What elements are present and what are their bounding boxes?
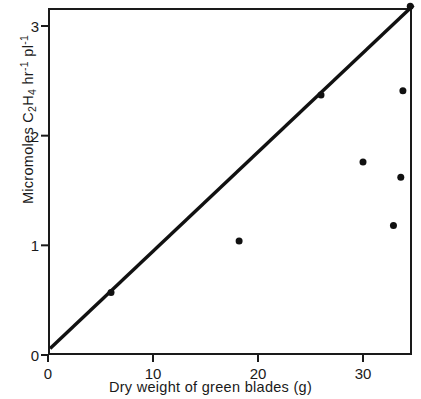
data-point <box>236 237 243 244</box>
data-point <box>399 87 406 94</box>
y-axis-title-prefix: Micromoles C <box>20 112 36 204</box>
data-point <box>390 222 397 229</box>
y-axis-title: Micromoles C2H4 hr-1 pl-1 <box>18 0 37 240</box>
data-point <box>318 92 325 99</box>
y-axis-title-mid-pl: pl <box>20 45 36 61</box>
fit-line-group <box>50 5 413 348</box>
data-point <box>397 174 404 181</box>
data-point <box>360 158 367 165</box>
data-point <box>108 289 115 296</box>
regression-line <box>50 5 413 348</box>
y-axis-title-sup-hr-exp: -1 <box>18 61 30 71</box>
scatter-plot-figure: 01020300123 Dry weight of green blades (… <box>0 0 421 399</box>
plot-canvas <box>0 0 421 399</box>
y-axis-title-sup-pl-exp: -1 <box>18 35 30 45</box>
x-axis-title: Dry weight of green blades (g) <box>0 379 421 395</box>
y-axis-title-mid-hr: hr <box>20 71 36 89</box>
y-axis-title-sub-4: 4 <box>26 89 38 95</box>
data-point <box>407 3 414 10</box>
y-axis-title-sub-2: 2 <box>26 106 38 112</box>
y-axis-title-mid-h: H <box>20 95 36 106</box>
y-tick-label: 0 <box>22 347 39 364</box>
